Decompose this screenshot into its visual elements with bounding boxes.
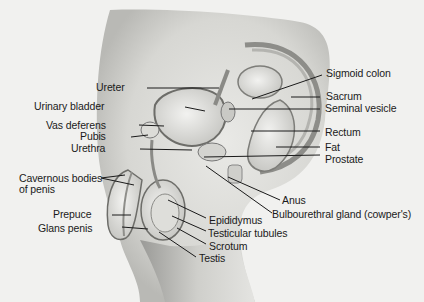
label-pubis: Pubis <box>80 131 106 142</box>
label-cavernous-bodies-line2: of penis <box>19 184 55 195</box>
label-ureter: Ureter <box>96 82 125 93</box>
label-scrotum: Scrotum <box>209 241 247 252</box>
sigmoid-colon-shape <box>238 66 282 98</box>
label-fat: Fat <box>325 142 340 153</box>
label-rectum: Rectum <box>325 127 361 138</box>
label-sacrum: Sacrum <box>326 91 362 102</box>
label-urinary-bladder: Urinary bladder <box>34 101 104 112</box>
label-prepuce: Prepuce <box>53 209 91 220</box>
label-testis: Testis <box>199 253 225 264</box>
label-sigmoid-colon: Sigmoid colon <box>326 68 391 79</box>
label-glans-penis: Glans penis <box>38 223 92 234</box>
label-testicular-tubules: Testicular tubules <box>208 228 287 239</box>
label-prostate: Prostate <box>325 154 363 165</box>
label-urethra: Urethra <box>71 143 105 154</box>
prostate-shape <box>198 143 226 161</box>
label-bulbourethral-gland: Bulbourethral gland (cowper's) <box>272 209 411 220</box>
label-epididymus: Epididymus <box>209 215 262 226</box>
label-seminal-vesicle: Seminal vesicle <box>325 103 396 114</box>
testis-shape <box>151 194 179 232</box>
label-anus: Anus <box>282 195 306 206</box>
